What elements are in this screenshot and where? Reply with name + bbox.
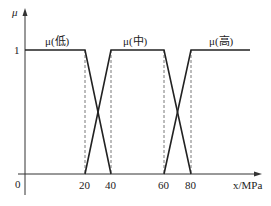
- x-tick-20: 20: [79, 179, 91, 191]
- series-mid: [85, 50, 191, 174]
- x-tick-60: 60: [158, 179, 170, 191]
- series-high: [164, 50, 250, 174]
- x-axis-label: x/MPa: [233, 179, 262, 191]
- membership-chart: μ 1 0 μ(低) μ(中) μ(高) 20 40 60 80 x/MPa: [0, 0, 271, 206]
- label-high: μ(高): [209, 34, 234, 48]
- label-low: μ(低): [45, 35, 70, 48]
- dashed-guides: [85, 50, 191, 174]
- origin-label: 0: [15, 178, 21, 190]
- label-mid: μ(中): [123, 35, 148, 48]
- x-tick-40: 40: [105, 179, 117, 191]
- y-axis-label: μ: [11, 6, 18, 18]
- x-axis-arrow-icon: [254, 172, 262, 177]
- y-tick-1: 1: [14, 44, 20, 56]
- y-axis-arrow-icon: [23, 8, 28, 16]
- x-tick-80: 80: [185, 179, 197, 191]
